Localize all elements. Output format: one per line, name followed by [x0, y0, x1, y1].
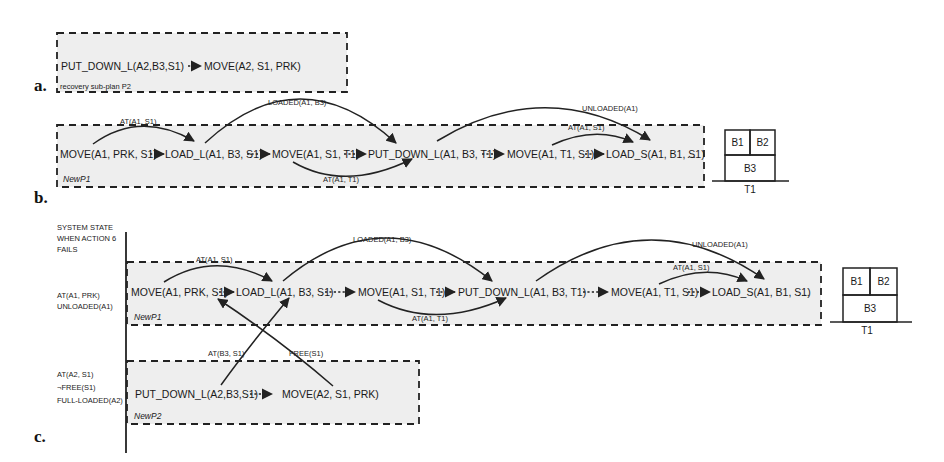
- plan-repair-diagram: PUT_DOWN_L(A2,B3,S1) MOVE(A2, S1, PRK) r…: [0, 0, 944, 462]
- action-5: MOVE(A1, T1, S1): [507, 148, 594, 160]
- state-p2-fact: AT(A2, S1): [57, 370, 94, 379]
- link-label: AT(A1, S1): [196, 255, 233, 264]
- link-label: AT(A1, S1): [568, 123, 605, 132]
- action-put-down: PUT_DOWN_L(A2,B3,S1): [135, 388, 258, 400]
- panel-label-b: b.: [34, 188, 48, 207]
- block-b2-label: B2: [756, 137, 769, 148]
- state-header: FAILS: [57, 245, 77, 254]
- link-label: LOADED(A1, B3): [353, 235, 412, 244]
- block-b3-label: B3: [744, 163, 757, 174]
- link-label: UNLOADED(A1): [582, 104, 638, 113]
- plan-name: NewP1: [63, 174, 91, 184]
- trailing-ellipsis: ...: [687, 148, 696, 160]
- link-label: AT(A1, T1): [323, 175, 359, 184]
- link-label: UNLOADED(A1): [692, 240, 748, 249]
- action-move: MOVE(A2, S1, PRK): [282, 388, 379, 400]
- panel-c: c. SYSTEM STATE WHEN ACTION 6 FAILS AT(A…: [34, 223, 912, 453]
- state-header: WHEN ACTION 6: [57, 234, 116, 243]
- plan-name: NewP1: [134, 312, 162, 322]
- action-5: MOVE(A1, T1, S1): [611, 286, 698, 298]
- table-label: T1: [744, 184, 756, 195]
- state-p2-fact: FULL-LOADED(A2): [57, 396, 123, 405]
- state-p1-fact: AT(A1, PRK): [57, 291, 100, 300]
- action-3: MOVE(A1, S1, T1): [358, 286, 445, 298]
- state-p1-fact: UNLOADED(A1): [57, 302, 113, 311]
- action-1: MOVE(A1, PRK, S1): [131, 286, 228, 298]
- link-label: AT(A1, S1): [673, 263, 710, 272]
- action-1: MOVE(A1, PRK, S1): [60, 148, 157, 160]
- blocks-stack: B1 B2 B3 T1: [712, 130, 789, 195]
- block-b1-label: B1: [850, 276, 863, 287]
- plan-name: NewP2: [134, 411, 162, 421]
- panel-a: PUT_DOWN_L(A2,B3,S1) MOVE(A2, S1, PRK) r…: [34, 33, 347, 95]
- link-label: AT(A1, S1): [120, 117, 157, 126]
- block-b2-label: B2: [877, 276, 890, 287]
- panel-b: b. NewP1 MOVE(A1, PRK, S1) LOAD_L(A1, B3…: [34, 98, 789, 207]
- blocks-stack: B1 B2 B3 T1: [830, 268, 912, 336]
- panel-label-a: a.: [34, 76, 47, 95]
- action-4: PUT_DOWN_L(A1, B3, T1): [458, 286, 586, 298]
- action-move: MOVE(A2, S1, PRK): [204, 60, 301, 72]
- action-3: MOVE(A1, S1, T1): [272, 148, 359, 160]
- state-p2-fact: ¬FREE(S1): [57, 383, 96, 392]
- state-header: SYSTEM STATE: [57, 223, 113, 232]
- panel-label-c: c.: [34, 427, 46, 446]
- link-label: AT(A1, T1): [412, 314, 448, 323]
- table-label: T1: [861, 325, 873, 336]
- action-2: LOAD_L(A1, B3, S1): [236, 286, 333, 298]
- action-put-down: PUT_DOWN_L(A2,B3,S1): [61, 60, 184, 72]
- link-label: LOADED(A1, B3): [268, 98, 327, 107]
- trailing-ellipsis: ...: [801, 286, 810, 298]
- plan-name: recovery sub-plan P2: [60, 82, 131, 91]
- cross-link-label: AT(B3, S1): [208, 349, 245, 358]
- block-b1-label: B1: [731, 137, 744, 148]
- action-4: PUT_DOWN_L(A1, B3, T1): [368, 148, 496, 160]
- action-6: LOAD_S(A1, B1, S1): [712, 286, 811, 298]
- cross-link-label: FREE(S1): [289, 349, 324, 358]
- block-b3-label: B3: [864, 303, 877, 314]
